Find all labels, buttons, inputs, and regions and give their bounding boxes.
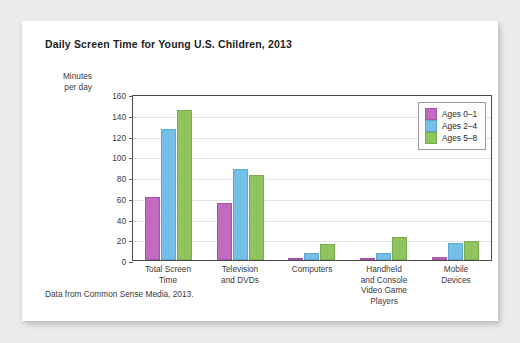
legend-label-ages-5-8: Ages 5–8	[442, 133, 477, 143]
bar	[249, 175, 264, 260]
bar	[464, 241, 479, 260]
x-axis-label-line: and Console	[350, 275, 418, 286]
legend-swatch-icon-ages-2-4	[425, 120, 437, 132]
bar	[145, 197, 160, 260]
x-axis-label-line: Mobile	[422, 264, 490, 275]
bar	[392, 237, 407, 260]
x-axis-label-line: Devices	[422, 275, 490, 286]
y-axis-tick-label: 40	[117, 216, 126, 226]
bar-group	[276, 96, 348, 260]
source-caption: Data from Common Sense Media, 2013.	[45, 289, 194, 299]
y-axis-tick-label: 100	[112, 153, 126, 163]
x-axis-label: Computers	[276, 264, 348, 306]
y-axis-tick-label: 80	[117, 174, 126, 184]
x-axis-label: Total ScreenTime	[132, 264, 204, 306]
chart-title: Daily Screen Time for Young U.S. Childre…	[45, 38, 292, 50]
x-axis-label-line: Television	[206, 264, 274, 275]
bar	[288, 258, 303, 260]
y-axis-tick-label: 20	[117, 236, 126, 246]
legend-swatch-icon-ages-0-1	[425, 108, 437, 120]
bar	[320, 244, 335, 260]
bar	[304, 253, 319, 260]
x-axis-label-line: Handheld	[350, 264, 418, 275]
y-axis-tick-label: 120	[112, 133, 126, 143]
plot-area: 160140120100806040200 Ages 0–1 Ages 2–4 …	[132, 95, 492, 261]
x-axis-label-line: Players	[350, 296, 418, 307]
y-axis-title-line-2: per day	[36, 82, 92, 93]
bar	[233, 169, 248, 260]
y-axis-tick-label: 0	[121, 257, 126, 267]
bar-group	[348, 96, 420, 260]
x-axis-label-line: Video Game	[350, 285, 418, 296]
y-axis-tick	[129, 262, 133, 263]
bar	[177, 110, 192, 260]
y-axis-tick-label: 60	[117, 195, 126, 205]
bar	[432, 257, 447, 260]
legend-label-ages-2-4: Ages 2–4	[442, 121, 477, 131]
legend-swatch-icon-ages-5-8	[425, 132, 437, 144]
bar-group	[133, 96, 205, 260]
legend: Ages 0–1 Ages 2–4 Ages 5–8	[418, 102, 486, 150]
bar	[360, 258, 375, 260]
y-axis-title: Minutes per day	[36, 71, 92, 93]
chart-card: Daily Screen Time for Young U.S. Childre…	[22, 21, 498, 321]
x-axis-label-line: and DVDs	[206, 275, 274, 286]
legend-item-ages-0-1: Ages 0–1	[425, 108, 477, 120]
y-axis-title-line-1: Minutes	[36, 71, 92, 82]
x-axis-label: MobileDevices	[420, 264, 492, 306]
screenshot-root: Daily Screen Time for Young U.S. Childre…	[0, 0, 520, 343]
x-axis-label-line: Time	[134, 275, 202, 286]
bar	[161, 129, 176, 260]
bar	[376, 253, 391, 260]
bar	[448, 243, 463, 260]
y-axis-tick-label: 140	[112, 112, 126, 122]
bar-group	[205, 96, 277, 260]
x-axis-label: Handheldand ConsoleVideo GamePlayers	[348, 264, 420, 306]
bar	[217, 203, 232, 260]
x-axis-label-line: Computers	[278, 264, 346, 275]
y-axis-tick-label: 160	[112, 91, 126, 101]
legend-item-ages-5-8: Ages 5–8	[425, 132, 477, 144]
legend-item-ages-2-4: Ages 2–4	[425, 120, 477, 132]
x-axis-label-line: Total Screen	[134, 264, 202, 275]
legend-label-ages-0-1: Ages 0–1	[442, 109, 477, 119]
x-axis-label: Televisionand DVDs	[204, 264, 276, 306]
x-axis-labels: Total ScreenTimeTelevisionand DVDsComput…	[132, 264, 492, 306]
